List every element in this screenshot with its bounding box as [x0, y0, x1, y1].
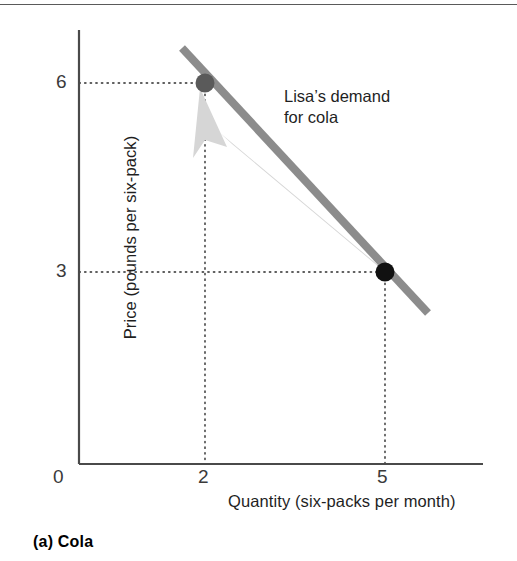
demand-curve-figure: Price (pounds per six-pack) Quantity (si… — [0, 0, 517, 561]
origin-label: 0 — [53, 466, 64, 488]
annotation-line-1: Lisa’s demand — [284, 87, 390, 105]
plot-area — [0, 0, 517, 561]
y-tick-label-3: 3 — [56, 260, 67, 282]
annotation-line-2: for cola — [284, 107, 390, 128]
x-tick-label-5: 5 — [377, 466, 388, 488]
data-point-lower — [376, 263, 395, 282]
demand-curve-annotation: Lisa’s demand for cola — [284, 86, 390, 128]
data-point-upper — [196, 74, 215, 93]
x-axis-title: Quantity (six-packs per month) — [228, 492, 456, 511]
y-tick-label-6: 6 — [56, 71, 67, 93]
y-axis-title: Price (pounds per six-pack) — [121, 38, 140, 438]
figure-caption: (a) Cola — [33, 533, 93, 551]
x-tick-label-2: 2 — [198, 466, 209, 488]
